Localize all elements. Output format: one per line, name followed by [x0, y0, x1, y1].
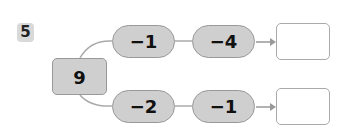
answer-box[interactable]: [276, 23, 330, 60]
operation-pill: −1: [112, 25, 175, 58]
answer-box[interactable]: [276, 88, 330, 125]
problem-number: 5: [17, 23, 34, 42]
start-value-box: 9: [52, 58, 107, 95]
operation-pill: −2: [112, 90, 175, 123]
operation-pill: −4: [192, 25, 255, 58]
operation-pill: −1: [192, 90, 255, 123]
